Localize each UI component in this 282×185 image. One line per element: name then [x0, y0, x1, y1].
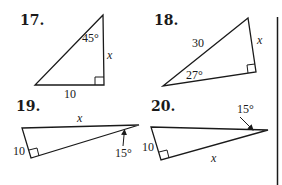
problem-17: 17. 45° x 10 — [20, 12, 113, 101]
right-angle-marker-18 — [247, 64, 255, 73]
angle-arrow-19 — [123, 130, 125, 146]
triangle-17 — [35, 15, 104, 85]
problem-20: 20. 15° 10 x — [142, 98, 268, 165]
angle-label-20: 15° — [237, 102, 254, 116]
side-left-label-19: 10 — [13, 144, 25, 158]
problem-18: 18. 30 x 27° — [154, 12, 263, 86]
side-top-label-19: x — [76, 111, 83, 125]
problem-19-number: 19. — [16, 98, 40, 114]
problem-17-number: 17. — [20, 12, 44, 28]
side-right-label-18: x — [256, 33, 263, 47]
angle-label-17: 45° — [82, 31, 99, 45]
hypotenuse-label-18: 30 — [192, 36, 204, 50]
side-bottom-label-17: 10 — [64, 87, 76, 101]
problem-20-number: 20. — [151, 98, 175, 114]
problem-18-number: 18. — [154, 12, 178, 28]
right-angle-marker-17 — [95, 77, 104, 85]
right-triangle-exercises: 17. 45° x 10 18. 30 x 27° 19. x 10 15° 2… — [0, 0, 282, 185]
angle-label-19: 15° — [115, 146, 132, 160]
angle-arrow-20 — [240, 117, 253, 130]
side-bottom-label-20: x — [210, 151, 217, 165]
triangle-18 — [163, 18, 256, 86]
problem-19: 19. x 10 15° — [13, 98, 139, 160]
side-left-label-20: 10 — [142, 140, 154, 154]
side-vertical-label-17: x — [106, 48, 113, 62]
angle-label-18: 27° — [186, 68, 203, 82]
